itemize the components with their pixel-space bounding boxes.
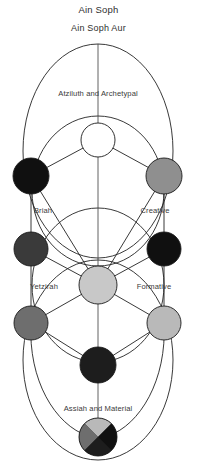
label-assiah: Assiah and Material (64, 404, 133, 413)
tree-of-life-diagram: Ain Soph Ain Soph Aur (0, 0, 197, 469)
sephira-yesod (80, 347, 116, 383)
sephira-chokmah (146, 158, 182, 194)
label-formative: Formative (137, 282, 172, 291)
sephira-tiphareth (79, 266, 117, 304)
tree-of-life-svg: Atziluth and Archetypal Briah Creative Y… (0, 0, 197, 469)
label-atziluth: Atziluth and Archetypal (58, 89, 138, 98)
label-yetzirah: Yetzirah (30, 282, 58, 291)
sephira-chesed (147, 232, 181, 266)
sephira-geburah (14, 232, 48, 266)
label-briah: Briah (34, 206, 52, 215)
sephira-kether (81, 123, 115, 157)
sephira-binah (13, 158, 49, 194)
path-netzach-malkuth (108, 323, 164, 436)
sephira-hod (14, 306, 48, 340)
path-hod-malkuth (31, 323, 88, 436)
label-creative: Creative (140, 206, 169, 215)
sephira-netzach (147, 306, 181, 340)
